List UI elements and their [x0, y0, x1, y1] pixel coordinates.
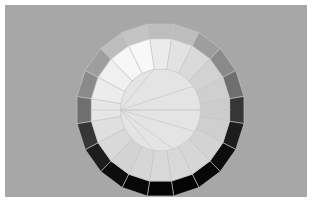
cylinder-render — [0, 0, 312, 203]
outer-band-face — [147, 181, 173, 196]
outer-band-face — [77, 96, 91, 123]
outer-band-face — [230, 96, 244, 123]
outer-band-face — [147, 24, 173, 39]
render-viewport — [0, 0, 312, 203]
